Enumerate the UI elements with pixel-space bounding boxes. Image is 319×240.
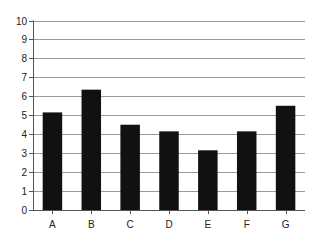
x-axis-ticks: ABCDEFG [49,210,290,230]
y-tick-label: 7 [21,72,27,83]
x-tick-label: G [282,219,290,230]
y-tick-label: 8 [21,53,27,64]
x-tick-label: C [127,219,134,230]
y-tick-label: 4 [21,129,27,140]
bar-a [43,112,63,210]
x-tick-label: E [205,219,212,230]
bar-e [198,150,218,210]
bar-f [237,131,257,210]
y-tick-label: 10 [16,16,28,27]
y-tick-label: 0 [21,205,27,216]
bar-c [120,125,139,210]
x-tick-label: D [165,219,172,230]
bar-b [82,90,102,210]
y-axis-ticks: 012345678910 [16,16,33,216]
y-tick-label: 3 [21,148,27,159]
y-tick-label: 2 [21,167,27,178]
y-tick-label: 5 [21,110,27,121]
bar-g [276,106,296,210]
bar-d [159,131,179,210]
bar-chart: 012345678910 ABCDEFG [0,0,319,240]
y-tick-label: 9 [21,34,27,45]
x-tick-label: A [49,219,56,230]
x-tick-label: B [88,219,95,230]
y-tick-label: 1 [21,186,27,197]
y-tick-label: 6 [21,91,27,102]
x-tick-label: F [244,219,250,230]
